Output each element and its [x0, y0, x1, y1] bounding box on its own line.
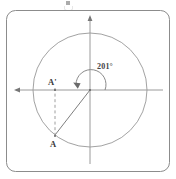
point-a-prime-marker [54, 89, 56, 91]
terminal-ray [55, 90, 90, 135]
point-a-prime-label: A' [48, 78, 57, 87]
origin-point [89, 89, 91, 91]
rotation-diagram [0, 0, 176, 179]
figure-container: 201° A' A [0, 0, 176, 179]
angle-measure-label: 201° [97, 63, 113, 71]
point-a-label: A [50, 140, 56, 149]
point-a-marker [54, 135, 56, 137]
y-axis-arrowhead-icon [88, 15, 93, 21]
rotation-arc [76, 70, 106, 90]
rotation-arc-arrowhead-icon [73, 83, 80, 89]
x-axis-arrowhead-icon [14, 88, 20, 93]
